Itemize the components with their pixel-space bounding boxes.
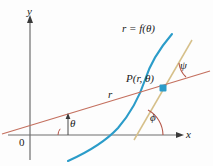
- y-axis-label: y: [27, 6, 32, 17]
- theta-label: θ: [70, 118, 75, 129]
- psi-label: ψ: [180, 60, 187, 71]
- x-axis-arrowhead: [176, 132, 184, 138]
- radius-label: r: [108, 89, 112, 100]
- figure-canvas: [0, 0, 213, 166]
- y-axis: [27, 15, 33, 160]
- polar-curve: [68, 34, 172, 161]
- curve-equation-label: r = f(θ): [122, 23, 155, 34]
- polar-curve-figure: y x 0 r = f(θ) P(r, θ) r θ ϕ ψ: [0, 0, 213, 166]
- point-p-label: P(r, θ): [126, 73, 154, 84]
- phi-label: ϕ: [150, 112, 156, 123]
- point-p-marker: [160, 85, 167, 92]
- theta-arc: [58, 129, 60, 135]
- x-axis-label: x: [186, 129, 191, 140]
- origin-label: 0: [19, 137, 25, 148]
- radial-line: [2, 71, 210, 134]
- x-axis: [8, 132, 184, 138]
